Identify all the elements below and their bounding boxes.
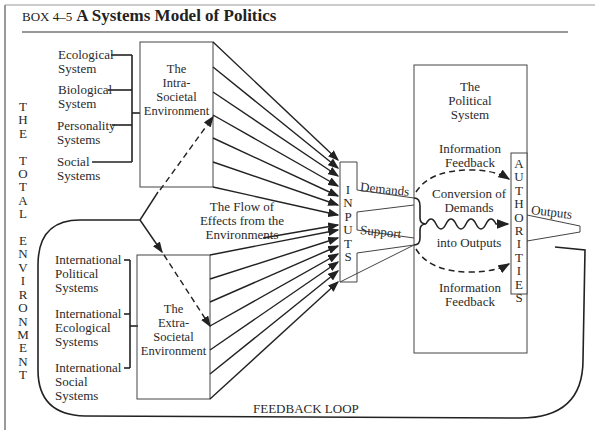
information-feedback-bottom: Information Feedback [430,281,510,309]
source-biological-system: Biological System [58,83,112,111]
source-personality-systems: Personality Systems [57,119,116,147]
information-feedback-top: Information Feedback [430,142,510,170]
systems-model-diagram: BOX 4–5A Systems Model of Politics T H E… [0,0,595,430]
inputs-label: I N P U T S [341,183,355,263]
political-system-label: The Political System [430,80,510,122]
conversion-label: Conversion of Demands [424,187,514,215]
source-social-systems: Social Systems [57,155,100,183]
flow-of-effects-label: The Flow of Effects from the Environment… [192,200,292,242]
extra-societal-box-label: The Extra- Societal Environment [137,302,210,358]
feedback-loop-label: FEEDBACK LOOP [253,402,359,416]
box-number: BOX 4–5 [22,9,72,24]
title-text: A Systems Model of Politics [76,6,276,25]
authorities-label: A U T H O R I T I E S [512,157,526,304]
source-international-ecological: International Ecological Systems [55,307,121,349]
intra-societal-box-label: The Intra- Societal Environment [140,62,213,118]
total-environment-label: T H E T O T A L E N V I R O N M E N T [16,100,30,382]
source-ecological-system: Ecological System [58,48,114,76]
into-outputs-label: into Outputs [424,236,514,250]
source-international-political: International Political Systems [55,253,121,295]
figure-title: BOX 4–5A Systems Model of Politics [22,6,276,26]
source-international-social: International Social Systems [55,361,121,403]
